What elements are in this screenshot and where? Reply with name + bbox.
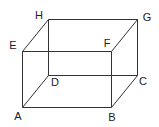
- cuboid-edges: [23, 20, 138, 108]
- vertex-label-a: A: [14, 110, 22, 122]
- vertex-label-b: B: [108, 111, 115, 123]
- edge-bc: [112, 76, 138, 108]
- cuboid-svg: ABCDEFGH: [0, 0, 159, 127]
- vertex-label-d: D: [51, 76, 59, 88]
- cuboid-diagram: ABCDEFGH: [0, 0, 159, 127]
- vertex-label-f: F: [104, 37, 111, 49]
- vertex-label-c: C: [139, 75, 147, 87]
- vertex-label-h: H: [35, 9, 43, 21]
- edge-he: [23, 20, 49, 52]
- edge-fg: [112, 20, 138, 52]
- vertex-label-g: G: [143, 11, 152, 23]
- edge-da: [23, 76, 49, 108]
- vertex-label-e: E: [9, 39, 16, 51]
- vertex-labels: ABCDEFGH: [9, 9, 151, 123]
